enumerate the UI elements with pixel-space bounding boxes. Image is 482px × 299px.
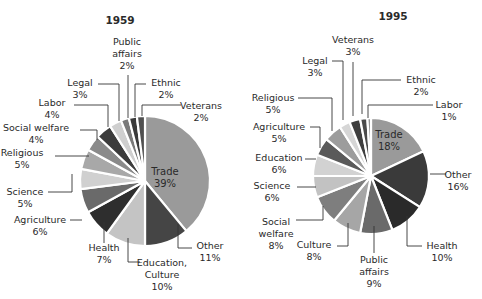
slice-label-agriculture: Agriculture5% (253, 121, 305, 144)
slice-label-other: Other16% (445, 169, 472, 192)
slice-label-agriculture: Agriculture6% (14, 214, 66, 237)
slice-label-science: Science6% (254, 180, 291, 203)
leader-line (98, 84, 119, 121)
slice-label-health: Health10% (426, 240, 457, 263)
pie-chart-1995: 1995Trade18%Other16%Health10%Publicaffai… (252, 10, 472, 289)
slice-label-veterans: Veterans2% (180, 100, 222, 123)
slice-label-ethnic: Ethnic2% (406, 74, 436, 97)
slice-label-trade: Trade39% (150, 166, 178, 189)
slice-label-religious: Religious5% (1, 147, 44, 170)
chart-title: 1995 (378, 10, 407, 22)
leader-line (142, 105, 181, 116)
leader-line (296, 206, 323, 220)
slice-label-education: Education,Culture10% (137, 257, 187, 292)
slice-label-culture: Culture8% (297, 239, 332, 262)
leader-line (48, 174, 72, 192)
slice-label-legal: Legal3% (302, 55, 327, 78)
slice-label-ethnic: Ethnic2% (151, 77, 181, 100)
slice-label-labor: Labor4% (39, 97, 66, 120)
figure: 1959Trade39%Other11%Education,Culture10%… (0, 0, 482, 299)
leader-line (74, 105, 108, 127)
leader-line (332, 61, 343, 120)
slice-label-legal: Legal3% (67, 77, 92, 100)
leader-line (310, 127, 320, 148)
slice-label-social-welfare: Social welfare4% (3, 122, 69, 145)
slice-label-labor: Labor1% (436, 99, 463, 122)
pie-charts: 1959Trade39%Other11%Education,Culture10%… (0, 0, 482, 299)
slice-label-public: Publicaffairs2% (112, 36, 142, 71)
slice-label-veterans: Veterans3% (332, 34, 374, 57)
slice-label-science: Science5% (7, 186, 44, 209)
chart-title: 1959 (105, 14, 134, 26)
slice-label-public: Publicaffairs9% (359, 254, 389, 289)
slice-label-social: Socialwelfare8% (259, 216, 294, 251)
leader-line (135, 84, 146, 117)
slice-label-education: Education6% (255, 152, 302, 175)
pie-chart-1959: 1959Trade39%Other11%Education,Culture10%… (1, 14, 224, 292)
slice-label-health: Health7% (88, 242, 119, 265)
slice-label-trade: Trade18% (374, 129, 402, 152)
slice-label-religious: Religious5% (252, 92, 295, 115)
leader-line (368, 105, 433, 118)
slice-label-other: Other11% (197, 240, 224, 263)
